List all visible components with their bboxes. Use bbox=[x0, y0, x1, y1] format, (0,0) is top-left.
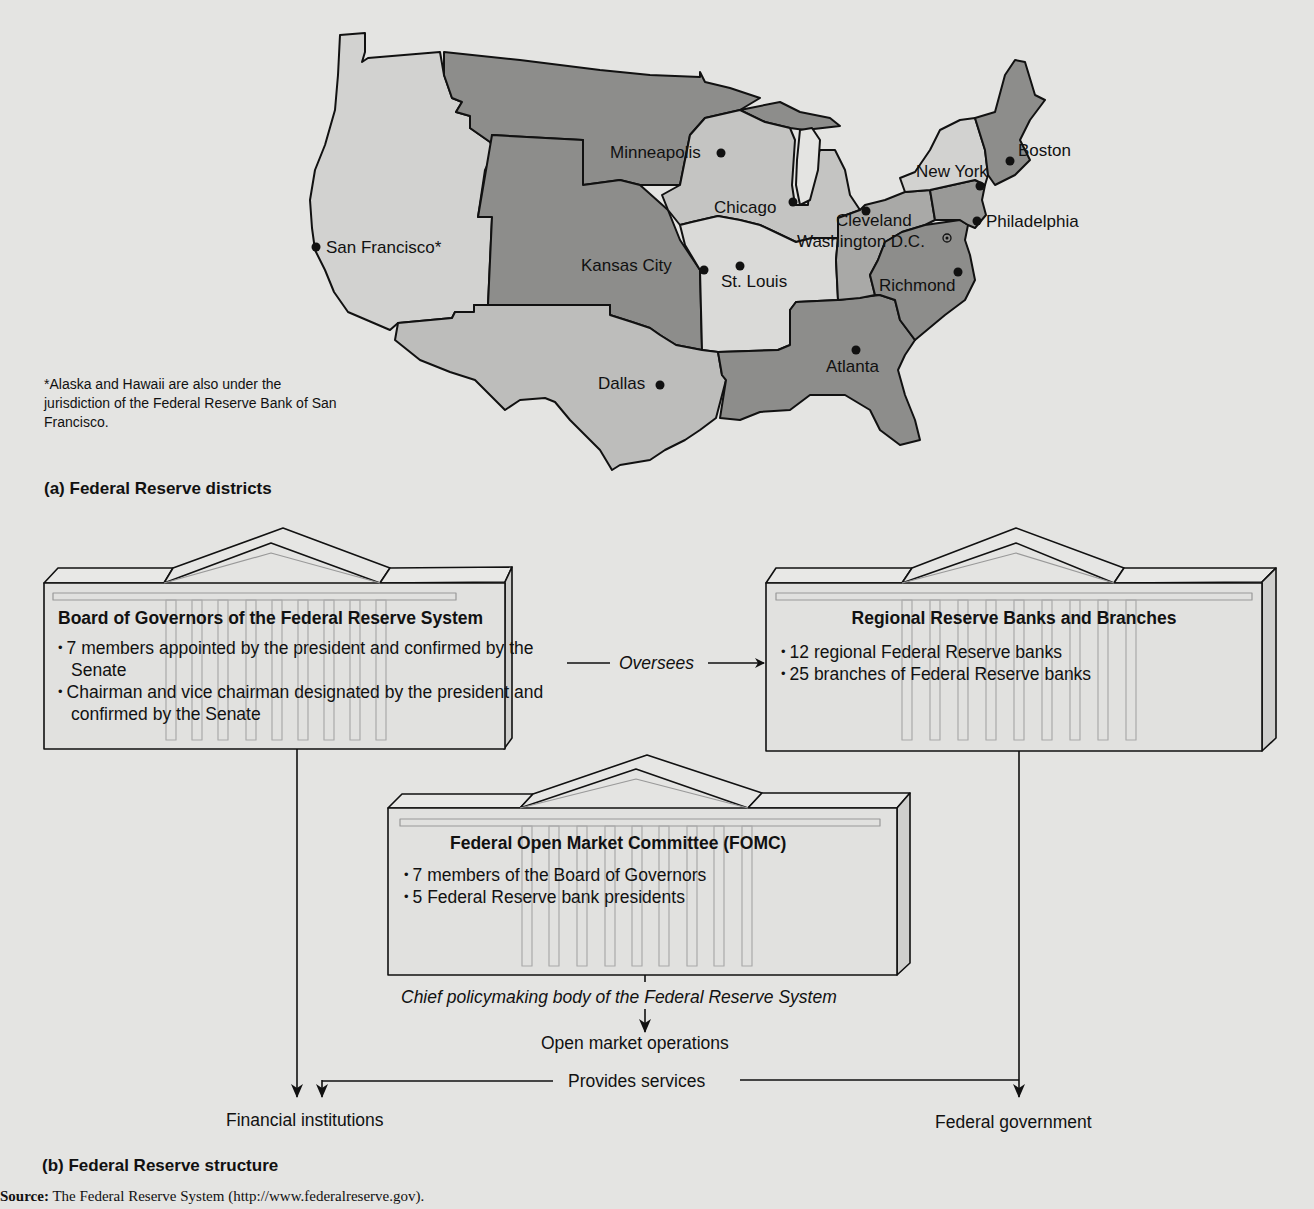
federal-government-label: Federal government bbox=[935, 1112, 1092, 1133]
fomc-box: Federal Open Market Committee (FOMC) 7 m… bbox=[388, 833, 897, 908]
board-title: Board of Governors of the Federal Reserv… bbox=[58, 608, 548, 629]
financial-institutions-label: Financial institutions bbox=[226, 1110, 384, 1131]
federal-reserve-structure-diagram bbox=[0, 0, 1314, 1209]
board-of-governors-box: Board of Governors of the Federal Reserv… bbox=[58, 608, 548, 725]
board-bullet-2: Chairman and vice chairman designated by… bbox=[58, 681, 548, 725]
source-line: Source: The Federal Reserve System (http… bbox=[0, 1188, 424, 1205]
regional-banks-box: Regional Reserve Banks and Branches 12 r… bbox=[766, 608, 1262, 685]
provides-services-label: Provides services bbox=[568, 1071, 705, 1092]
oversees-label: Oversees bbox=[619, 653, 694, 674]
structure-panel-caption: (b) Federal Reserve structure bbox=[42, 1156, 278, 1176]
source-text: The Federal Reserve System (http://www.f… bbox=[52, 1188, 424, 1204]
regional-bullet-1: 12 regional Federal Reserve banks bbox=[781, 641, 1262, 663]
regional-title: Regional Reserve Banks and Branches bbox=[766, 608, 1262, 629]
fomc-bullet-2: 5 Federal Reserve bank presidents bbox=[404, 886, 897, 908]
fomc-title: Federal Open Market Committee (FOMC) bbox=[388, 833, 897, 854]
fomc-bullet-1: 7 members of the Board of Governors bbox=[404, 864, 897, 886]
open-market-operations-label: Open market operations bbox=[541, 1033, 729, 1054]
fomc-subtitle: Chief policymaking body of the Federal R… bbox=[401, 987, 837, 1008]
source-label: Source: bbox=[0, 1188, 49, 1204]
regional-bullet-2: 25 branches of Federal Reserve banks bbox=[781, 663, 1262, 685]
board-bullet-1: 7 members appointed by the president and… bbox=[58, 637, 548, 681]
